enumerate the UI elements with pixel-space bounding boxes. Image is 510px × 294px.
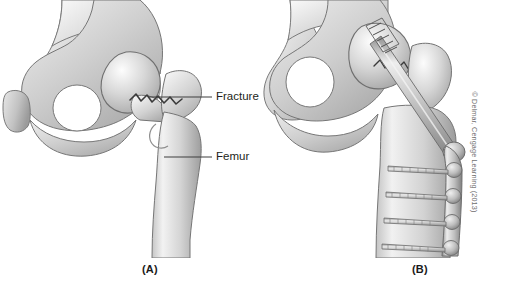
panel-caption-a: (A): [142, 263, 158, 275]
obturator-foramen: [286, 57, 334, 107]
panel-b-repaired-hip: [262, 0, 492, 258]
panel-a-illustration: [0, 0, 262, 258]
panel-b-illustration: [262, 0, 492, 258]
obturator-foramen: [53, 85, 101, 131]
panel-a-fractured-hip: [0, 0, 262, 258]
pubic-symphysis-stub: [3, 90, 30, 132]
callout-label-fracture: Fracture: [216, 90, 259, 102]
copyright-credit: © Delmar, Cengage Learning (2013): [470, 92, 479, 222]
femoral-shaft: [152, 112, 201, 258]
panel-caption-b: (B): [412, 263, 428, 275]
figure-container: Fracture Femur: [0, 0, 510, 294]
callout-label-femur: Femur: [216, 150, 249, 162]
